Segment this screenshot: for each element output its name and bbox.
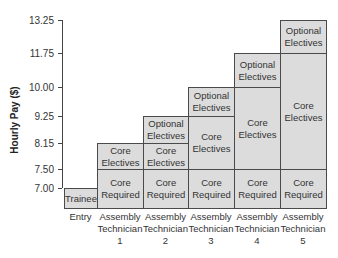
segment-label: CoreRequired	[192, 177, 231, 201]
segment-label: CoreElectives	[238, 117, 276, 141]
x-category-label: AssemblyTechnician3	[188, 211, 234, 247]
segment-core-required: CoreRequired	[188, 169, 235, 209]
y-tick-mark	[58, 116, 62, 117]
y-tick-label: 7.00	[18, 183, 54, 194]
segment-optional-electives: OptionalElectives	[143, 116, 189, 144]
y-tick-label: 8.15	[18, 138, 54, 149]
y-tick-mark	[58, 87, 62, 88]
segment-label: OptionalElectives	[147, 118, 185, 142]
segment-core-required: CoreRequired	[234, 169, 281, 209]
x-category-label: AssemblyTechnician5	[280, 211, 326, 247]
segment-core-electives: CoreElectives	[97, 143, 144, 170]
segment-label: CoreElectives	[101, 145, 139, 169]
y-tick-label: 13.25	[18, 15, 54, 26]
segment-trainee: Trainee	[64, 188, 98, 209]
segment-optional-electives: OptionalElectives	[188, 87, 235, 117]
segment-label: CoreRequired	[238, 177, 277, 201]
segment-label: CoreRequired	[284, 177, 323, 201]
y-tick-label: 7.50	[18, 164, 54, 175]
segment-core-electives: CoreElectives	[188, 116, 235, 170]
x-category-label: AssemblyTechnician4	[234, 211, 280, 247]
pay-progression-chart: Hourly Pay ($) 7.007.508.159.2510.0011.7…	[0, 0, 338, 258]
segment-label: OptionalElectives	[192, 90, 230, 114]
segment-core-electives: CoreElectives	[143, 143, 189, 170]
y-tick-mark	[58, 20, 62, 21]
segment-core-required: CoreRequired	[97, 169, 144, 209]
segment-core-electives: CoreElectives	[234, 87, 281, 170]
y-tick-label: 9.25	[18, 111, 54, 122]
segment-label: CoreRequired	[101, 177, 140, 201]
segment-optional-electives: OptionalElectives	[234, 53, 281, 88]
segment-label: CoreElectives	[284, 100, 322, 124]
x-category-label: AssemblyTechnician1	[97, 211, 143, 247]
segment-core-required: CoreRequired	[280, 169, 327, 209]
segment-label: CoreElectives	[192, 131, 230, 155]
segment-label: Trainee	[65, 193, 97, 205]
segment-label: OptionalElectives	[284, 25, 322, 49]
x-category-label: AssemblyTechnician2	[143, 211, 189, 247]
y-tick-mark	[58, 169, 62, 170]
y-tick-label: 11.75	[18, 48, 54, 59]
segment-core-electives: CoreElectives	[280, 53, 327, 170]
segment-label: CoreElectives	[147, 145, 185, 169]
segment-optional-electives: OptionalElectives	[280, 20, 327, 54]
y-tick-mark	[58, 53, 62, 54]
segment-core-required: CoreRequired	[143, 169, 189, 209]
y-tick-mark	[58, 188, 62, 189]
segment-label: CoreRequired	[147, 177, 186, 201]
y-axis-line	[62, 20, 63, 188]
y-tick-label: 10.00	[18, 82, 54, 93]
segment-label: OptionalElectives	[238, 59, 276, 83]
y-tick-mark	[58, 143, 62, 144]
